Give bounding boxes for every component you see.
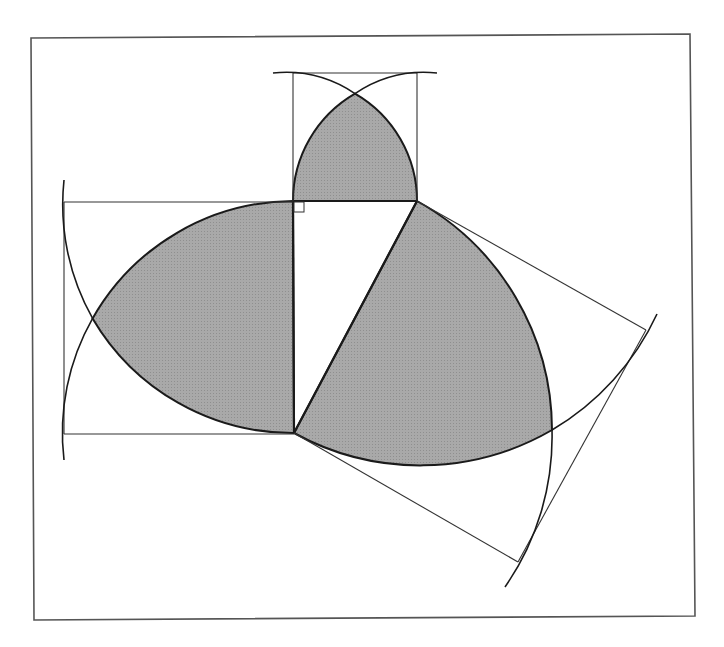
hypotenuse-lens — [294, 201, 552, 465]
left-lens — [93, 201, 294, 433]
top-lens — [293, 94, 417, 201]
right-angle-marker — [294, 202, 304, 212]
geometry-diagram — [0, 0, 724, 647]
